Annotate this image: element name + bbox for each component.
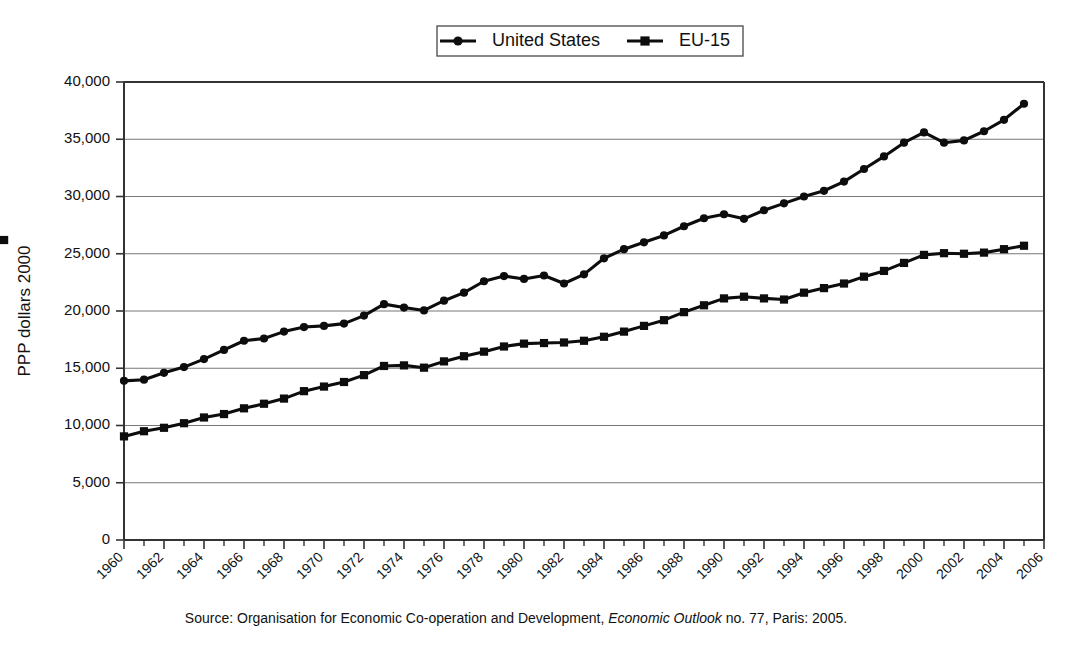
x-tick-label: 2002 <box>933 549 966 582</box>
circle-marker-icon <box>320 322 328 330</box>
square-marker-icon <box>520 340 528 348</box>
x-tick-label: 1962 <box>133 549 166 582</box>
chart-legend: United StatesEU-15 <box>437 26 743 56</box>
square-marker-icon <box>1020 242 1028 250</box>
circle-marker-icon <box>580 270 588 278</box>
y-tick-label: 40,000 <box>64 72 110 89</box>
line-chart: United StatesEU-15 05,00010,00015,00020,… <box>0 0 1071 652</box>
x-tick-label: 2000 <box>893 549 926 582</box>
circle-marker-icon <box>760 206 768 214</box>
square-marker-icon <box>360 371 368 379</box>
square-marker-icon <box>480 348 488 356</box>
y-tick-label: 5,000 <box>72 473 110 490</box>
square-marker-icon <box>960 250 968 258</box>
x-tick-label: 1988 <box>653 549 686 582</box>
circle-marker-icon <box>900 139 908 147</box>
series-line <box>124 246 1024 437</box>
x-tick-label: 1992 <box>733 549 766 582</box>
source-note: Source: Organisation for Economic Co-ope… <box>185 610 847 626</box>
x-tick-label: 1966 <box>213 549 246 582</box>
square-marker-icon <box>200 413 208 421</box>
circle-marker-icon <box>360 311 368 319</box>
circle-marker-icon <box>620 245 628 253</box>
square-marker-icon <box>600 333 608 341</box>
square-marker-icon <box>500 342 508 350</box>
circle-marker-icon <box>720 210 728 218</box>
square-marker-icon <box>340 378 348 386</box>
square-marker-icon <box>860 273 868 281</box>
circle-marker-icon <box>400 303 408 311</box>
square-marker-icon <box>120 432 128 440</box>
square-marker-icon <box>460 352 468 360</box>
x-tick-label: 1990 <box>693 549 726 582</box>
circle-marker-icon <box>120 377 128 385</box>
square-marker-icon <box>820 284 828 292</box>
square-marker-icon <box>720 294 728 302</box>
x-tick-label: 1972 <box>333 549 366 582</box>
circle-marker-icon <box>200 355 208 363</box>
circle-marker-icon <box>480 277 488 285</box>
circle-marker-icon <box>820 187 828 195</box>
circle-marker-icon <box>280 328 288 336</box>
circle-marker-icon <box>460 289 468 297</box>
y-tick-label: 10,000 <box>64 415 110 432</box>
x-tick-label: 1996 <box>813 549 846 582</box>
gridlines <box>124 139 1044 483</box>
y-tick-label: 30,000 <box>64 186 110 203</box>
circle-marker-icon <box>540 271 548 279</box>
square-marker-icon <box>560 338 568 346</box>
circle-marker-icon <box>1020 100 1028 108</box>
x-tick-label: 2004 <box>973 549 1006 582</box>
square-marker-icon <box>980 249 988 257</box>
square-marker-icon <box>220 410 228 418</box>
square-marker-icon <box>540 339 548 347</box>
square-marker-icon <box>900 259 908 267</box>
square-marker-icon <box>300 387 308 395</box>
circle-marker-icon <box>500 272 508 280</box>
circle-marker-icon <box>680 222 688 230</box>
series-line <box>124 104 1024 381</box>
circle-marker-icon <box>660 231 668 239</box>
y-tick-label: 25,000 <box>64 244 110 261</box>
x-tick-label: 1960 <box>93 549 126 582</box>
y-axis-title: PPP dollars 2000 <box>15 245 34 376</box>
circle-marker-icon <box>453 36 462 45</box>
y-tick-label: 20,000 <box>64 301 110 318</box>
x-tick-label: 1968 <box>253 549 286 582</box>
square-marker-icon <box>940 249 948 257</box>
circle-marker-icon <box>960 136 968 144</box>
circle-marker-icon <box>380 300 388 308</box>
square-marker-icon <box>160 424 168 432</box>
x-tick-label: 1964 <box>173 549 206 582</box>
circle-marker-icon <box>800 192 808 200</box>
square-marker-icon <box>280 394 288 402</box>
circle-marker-icon <box>940 139 948 147</box>
x-tick-label: 1982 <box>533 549 566 582</box>
circle-marker-icon <box>1000 116 1008 124</box>
square-marker-icon <box>680 308 688 316</box>
circle-marker-icon <box>640 238 648 246</box>
circle-marker-icon <box>560 279 568 287</box>
x-tick-label: 1998 <box>853 549 886 582</box>
square-marker-icon <box>320 382 328 390</box>
square-marker-icon <box>840 279 848 287</box>
circle-marker-icon <box>840 178 848 186</box>
square-marker-icon <box>580 337 588 345</box>
series-eu-15 <box>0 236 1028 441</box>
square-marker-icon <box>760 294 768 302</box>
circle-marker-icon <box>160 369 168 377</box>
x-tick-label: 1986 <box>613 549 646 582</box>
x-tick-label: 1980 <box>493 549 526 582</box>
circle-marker-icon <box>260 334 268 342</box>
circle-marker-icon <box>240 337 248 345</box>
circle-marker-icon <box>520 275 528 283</box>
square-marker-icon <box>620 328 628 336</box>
circle-marker-icon <box>700 214 708 222</box>
x-axis-ticks <box>124 540 1044 549</box>
circle-marker-icon <box>340 320 348 328</box>
square-marker-icon <box>660 316 668 324</box>
legend-label: EU-15 <box>679 30 730 50</box>
square-marker-icon <box>740 293 748 301</box>
x-tick-label: 1984 <box>573 549 606 582</box>
square-marker-icon <box>400 361 408 369</box>
